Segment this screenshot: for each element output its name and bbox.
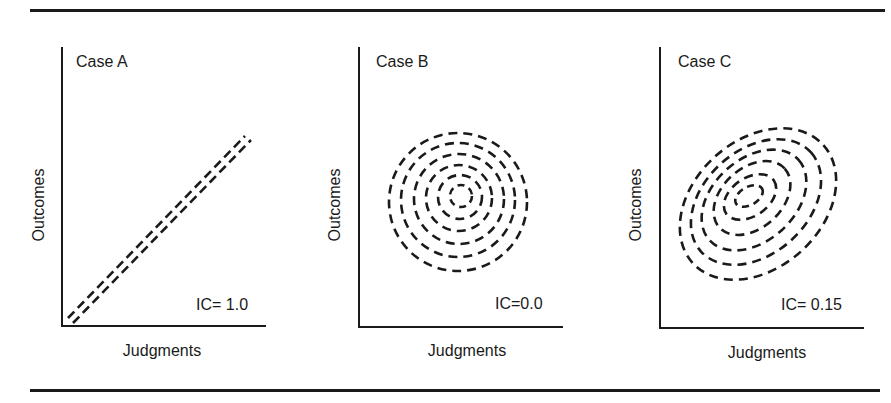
panel-title: Case B [376,53,428,70]
y-axis-label: Outcomes [326,169,343,242]
dashed-diagonal-lines [68,136,251,323]
dashed-concentric-circles [389,133,527,271]
y-axis-label: Outcomes [627,169,644,242]
panel-case-a: Case A IC= 1.0 Judgments Outcomes [30,47,266,359]
x-axis-label: Judgments [728,344,806,361]
panel-title: Case C [678,53,731,70]
x-axis-label: Judgments [428,342,506,359]
panel-case-c: Case C IC= 0.15 Judgments Outcomes [627,47,866,361]
figure-canvas: Case A IC= 1.0 Judgments Outcomes Case B… [0,0,891,403]
panel-case-b: Case B IC=0.0 Judgments Outcomes [326,47,563,359]
y-axis-label: Outcomes [30,169,47,242]
x-axis-label: Judgments [123,342,201,359]
panel-title: Case A [76,53,128,70]
dashed-tilted-ellipses [650,98,866,311]
ic-label: IC=0.0 [495,295,543,312]
ic-label: IC= 1.0 [196,296,248,313]
ic-label: IC= 0.15 [781,296,842,313]
